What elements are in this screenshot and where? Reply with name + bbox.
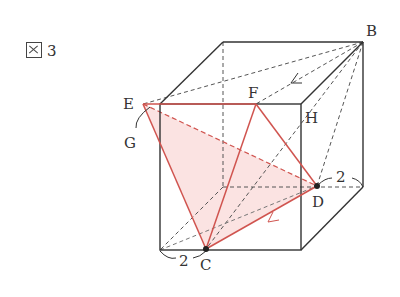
shaded-triangle-ecd	[143, 104, 317, 249]
point-c	[203, 246, 209, 252]
point-d	[314, 183, 320, 189]
label-h: H	[305, 109, 318, 127]
arc-right-2	[318, 178, 332, 185]
label-b: B	[366, 22, 377, 40]
arc-bottom-2	[160, 251, 176, 258]
dim-bottom: 2	[179, 252, 189, 270]
label-e: E	[123, 95, 134, 113]
cube-diagram: B E F H G D C 2 2	[0, 0, 400, 297]
arc-right-2b	[352, 178, 363, 187]
label-c: C	[200, 256, 211, 274]
label-f: F	[248, 84, 258, 102]
label-g: G	[124, 134, 136, 152]
label-d: D	[312, 193, 324, 211]
dim-right: 2	[336, 168, 346, 186]
